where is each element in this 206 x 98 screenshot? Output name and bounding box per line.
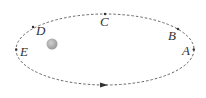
point-b-marker <box>177 28 179 30</box>
label-e: E <box>19 44 28 59</box>
point-a-marker <box>193 48 195 50</box>
orbit-diagram: A B C D E <box>0 0 206 98</box>
label-b: B <box>168 28 176 43</box>
label-d: D <box>35 23 46 38</box>
direction-arrow-icon <box>100 83 108 88</box>
point-e-marker <box>15 48 17 50</box>
label-c: C <box>100 14 109 29</box>
sun <box>47 39 58 50</box>
label-a: A <box>181 43 190 58</box>
point-d-marker <box>32 26 34 28</box>
